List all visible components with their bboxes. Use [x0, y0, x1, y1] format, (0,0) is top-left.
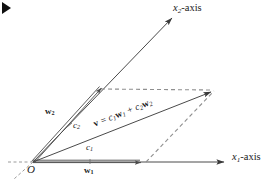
x1-axis-label: x1-axis — [232, 152, 261, 164]
construction-line-parallel-x1 — [101, 89, 213, 90]
x2-axis-label: x2-axis — [173, 3, 202, 15]
x1-axis-label-tail: -axis — [240, 151, 260, 162]
origin-label: O — [27, 164, 35, 175]
vector-decomposition-figure: x2-axis x1-axis v = c1w1 + c2w2 w2 c2 c1… — [0, 0, 275, 179]
construction-line-parallel-x2 — [146, 91, 214, 162]
c1-label-subscript: 1 — [90, 146, 93, 152]
c2-label-subscript: 2 — [77, 124, 80, 130]
c1-scalar-label: c1 — [86, 143, 93, 152]
w1-vector-label: w1 — [84, 166, 94, 175]
v-vector — [33, 92, 211, 162]
w2-label-subscript: 2 — [52, 110, 55, 116]
c2-scalar-label: c2 — [73, 121, 80, 130]
w1-label-subscript: 1 — [91, 169, 94, 175]
w2-vector-label: w2 — [45, 107, 55, 116]
equation-plus-sign: + — [125, 104, 135, 116]
equation-relation: = — [98, 114, 108, 126]
x2-axis-label-tail: -axis — [181, 2, 201, 13]
